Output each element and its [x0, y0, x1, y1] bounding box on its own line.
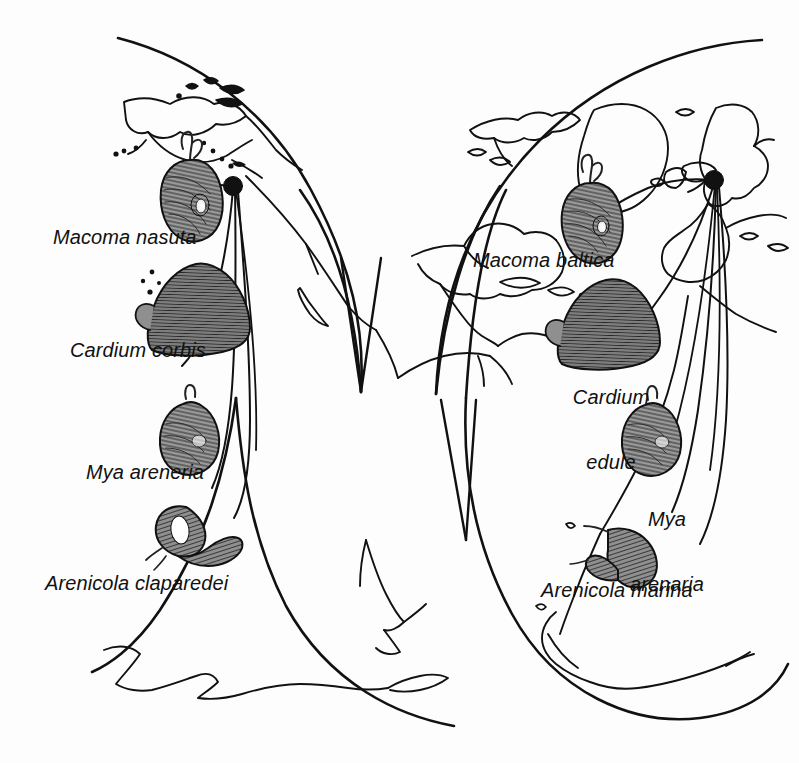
coastline-scandinavia-europe [688, 105, 774, 206]
world-map-illustration [0, 0, 799, 763]
species-label-macoma-nasuta: Macoma nasuta [53, 227, 197, 249]
origin-node-right [705, 171, 724, 190]
species-label-mya-areneria: Mya areneria [86, 462, 204, 484]
species-label-mya-arenaria: Mya arenaria [612, 466, 722, 639]
species-label-mya-arenaria-line1: Mya [612, 509, 722, 531]
species-label-cardium-corbis: Cardium corbis [70, 340, 206, 362]
species-label-macoma-baltica: Macoma baltica [473, 250, 614, 272]
coastline-west-north-america [232, 116, 302, 178]
origin-node-left [224, 177, 243, 196]
coastline-south-america-tail [360, 540, 426, 654]
species-label-cardium-edule-line1: Cardium [556, 387, 666, 409]
species-distribution-figure: Macoma nasuta Cardium corbis Mya areneri… [0, 0, 799, 763]
connector-macoma-baltica [608, 179, 712, 210]
arenicola-claparedei-worm [146, 506, 242, 570]
species-label-arenicola-marina: Arenicola marina [541, 580, 693, 602]
macoma-baltica-shell [562, 155, 623, 264]
left-lobe-lower-outline [92, 398, 454, 726]
species-label-arenicola-claparedei: Arenicola claparedei [45, 573, 228, 595]
map-interruption-wedges [341, 258, 476, 540]
coastline-south-america-east [398, 353, 512, 386]
coastline-south-america-west [376, 330, 398, 378]
coastline-antarctica-right [726, 654, 754, 666]
coastline-aleutian-island-dots [114, 78, 244, 156]
